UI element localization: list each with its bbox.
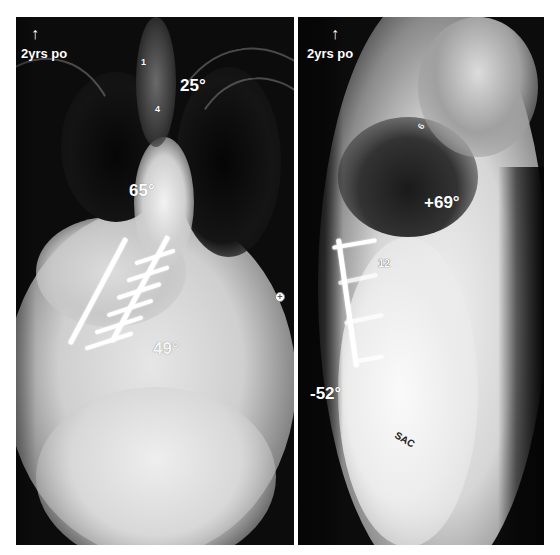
xray-ap-view: ↑ 2yrs po 1 4 25° 65° 49° + [16,17,294,545]
lumbar-spine [338,237,478,545]
cobb-angle-upper-thoracic: 25° [180,77,206,94]
upper-thorax [418,17,538,157]
upper-spine [136,17,176,147]
left-dark-edge [16,17,36,545]
rib-shadow [16,44,138,293]
rib-shadow [148,33,294,286]
right-dark-edge [498,167,544,545]
spinal-rod [336,238,359,367]
pedicle-screw [354,354,384,363]
time-label: 2yrs po [307,47,353,60]
rib-shadow [176,70,294,289]
right-lung [176,67,281,257]
thoracic-lung-shadow [338,117,478,237]
xray-lateral-view: ↑ 2yrs po 6 +69° 12 -52° SAC [298,17,544,545]
left-dark-edge [298,17,343,545]
skin-marker-icon: + [275,292,285,302]
vertebra-marker: 12 [378,258,390,269]
orientation-arrow-up-icon: ↑ [331,26,339,42]
cobb-angle-main-thoracic: 65° [129,182,155,199]
cobb-angle-lumbar: 49° [153,340,179,357]
sacrum-label: SAC [393,430,416,449]
sagittal-angle-lumbar-lordosis: -52° [310,385,341,402]
pedicle-screw [85,331,134,350]
vertebra-marker: 1 [141,58,146,67]
orientation-arrow-up-icon: ↑ [31,26,39,42]
pelvis [36,387,276,545]
vertebra-marker: 4 [155,105,160,114]
sagittal-angle-thoracic-kyphosis: +69° [424,194,460,211]
time-label: 2yrs po [21,47,67,60]
vertebra-marker: 6 [416,122,426,131]
